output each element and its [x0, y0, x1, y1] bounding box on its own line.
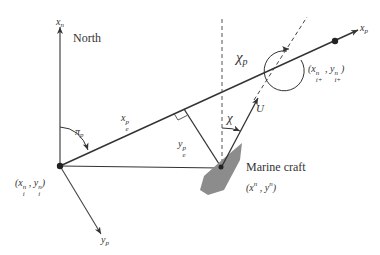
- course-angle-label: χ: [227, 111, 233, 124]
- cross-track-label: ype: [178, 139, 186, 159]
- vessel-position-dot: [219, 165, 224, 170]
- vessel-position-label: (xn , yn): [246, 181, 276, 193]
- origin-to-vessel-line: [60, 166, 221, 168]
- waypoint-start-dot: [57, 163, 63, 169]
- course-dashed-line: [254, 17, 307, 100]
- path-angle-label: πp: [75, 127, 84, 139]
- path-axis-label: xp: [360, 23, 368, 35]
- along-track-label: xpe: [121, 113, 129, 133]
- cross-axis-label: yp: [101, 235, 109, 247]
- path-axis-xp: [60, 30, 358, 166]
- marine-craft-label: Marine craft: [246, 161, 306, 173]
- waypoint-start-label: (xni , yni): [15, 178, 45, 198]
- course-angle-arc: [222, 128, 240, 131]
- cross-track-error-line: [184, 109, 221, 167]
- course-angle-p-label: χp: [236, 50, 248, 67]
- north-axis-label: xn: [56, 17, 64, 29]
- north-label: North: [73, 32, 101, 44]
- waypoint-next-dot: [332, 38, 338, 44]
- right-angle-marker: [174, 114, 187, 121]
- path-axis-yp: [60, 166, 101, 234]
- path-following-diagram: [0, 0, 380, 255]
- waypoint-next-label: (xni+ , yni+): [308, 64, 344, 84]
- speed-label: U: [256, 103, 264, 114]
